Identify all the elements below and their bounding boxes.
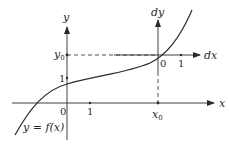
function-curve bbox=[15, 10, 192, 135]
x0-label: x0 bbox=[152, 108, 163, 122]
curve-label: y = f(x) bbox=[22, 121, 64, 134]
y-one-tick bbox=[66, 77, 68, 79]
dx-one-tick bbox=[180, 54, 182, 56]
x-one-tick bbox=[89, 102, 91, 104]
x0-tick bbox=[157, 102, 160, 105]
y-axis-label: y bbox=[62, 11, 70, 24]
tangent-diagram: y x 0 1 1 dy dx 0 1 y0 x0 y = f(x) bbox=[0, 0, 229, 146]
dx-tick-one-label: 1 bbox=[178, 58, 184, 69]
y0-label: y0 bbox=[53, 48, 65, 62]
y-tick-one-label: 1 bbox=[59, 73, 65, 84]
main-origin-label: 0 bbox=[60, 106, 66, 117]
y0-tick bbox=[66, 54, 69, 57]
dy-axis-label: dy bbox=[151, 6, 165, 19]
x-axis-label: x bbox=[219, 97, 226, 110]
x-tick-one-label: 1 bbox=[87, 106, 93, 117]
local-origin-label: 0 bbox=[160, 58, 166, 69]
dx-axis-label: dx bbox=[204, 49, 218, 62]
